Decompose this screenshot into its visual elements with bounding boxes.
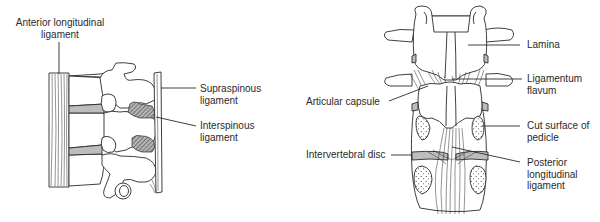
anterior-longitudinal-ligament-band xyxy=(49,73,69,187)
label-supraspinous-ligament: Supraspinous ligament xyxy=(200,83,261,106)
label-cut-surface-of-pedicle: Cut surface of pedicle xyxy=(527,120,589,143)
label-ligamentum-flavum: Ligamentum flavum xyxy=(527,73,582,96)
label-articular-capsule: Articular capsule xyxy=(306,96,380,108)
lamina-upper xyxy=(413,6,486,80)
lateral-spine-view xyxy=(49,42,196,199)
posterior-elements xyxy=(100,63,157,199)
spinal-ligaments-figure: Anterior longitudinal ligament Supraspin… xyxy=(0,0,600,222)
label-intervertebral-disc: Intervertebral disc xyxy=(306,149,385,161)
label-interspinous-ligament: Interspinous ligament xyxy=(200,120,254,143)
label-lamina: Lamina xyxy=(527,39,560,51)
label-anterior-longitudinal-ligament: Anterior longitudinal ligament xyxy=(12,17,108,40)
label-posterior-longitudinal-ligament: Posterior longitudinal ligament xyxy=(527,157,578,192)
posterior-spine-view xyxy=(384,6,522,214)
